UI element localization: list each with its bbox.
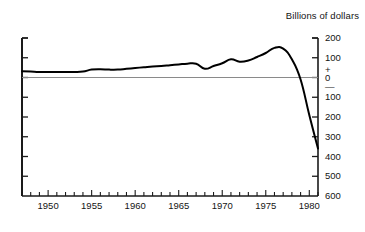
y-tick-label: 400	[325, 152, 341, 162]
x-tick-label: 1960	[125, 200, 146, 211]
plot-area	[0, 0, 365, 232]
y-tick-label: 500	[325, 171, 341, 181]
y-tick-label: 200	[325, 112, 341, 122]
x-tick-label: 1955	[81, 200, 102, 211]
y-tick-label: 300	[325, 132, 341, 142]
y-axis-plus-sign: +	[325, 65, 331, 74]
y-tick-label: 100	[325, 92, 341, 102]
chart-figure: Billions of dollars 20010001002003004005…	[0, 0, 365, 232]
x-tick-label: 1950	[38, 200, 59, 211]
y-tick-label: 200	[325, 33, 341, 43]
y-tick-label: 600	[325, 191, 341, 201]
axis-frame	[22, 38, 318, 196]
y-axis-minus-sign: —	[325, 82, 335, 91]
x-ticks-group	[22, 190, 318, 196]
y-tick-label: 100	[325, 53, 341, 63]
x-tick-label: 1980	[299, 200, 320, 211]
x-tick-label: 1965	[168, 200, 189, 211]
x-tick-label: 1970	[212, 200, 233, 211]
x-tick-label: 1975	[255, 200, 276, 211]
data-series-line	[22, 47, 318, 149]
y-ticks-right-group	[312, 38, 318, 176]
